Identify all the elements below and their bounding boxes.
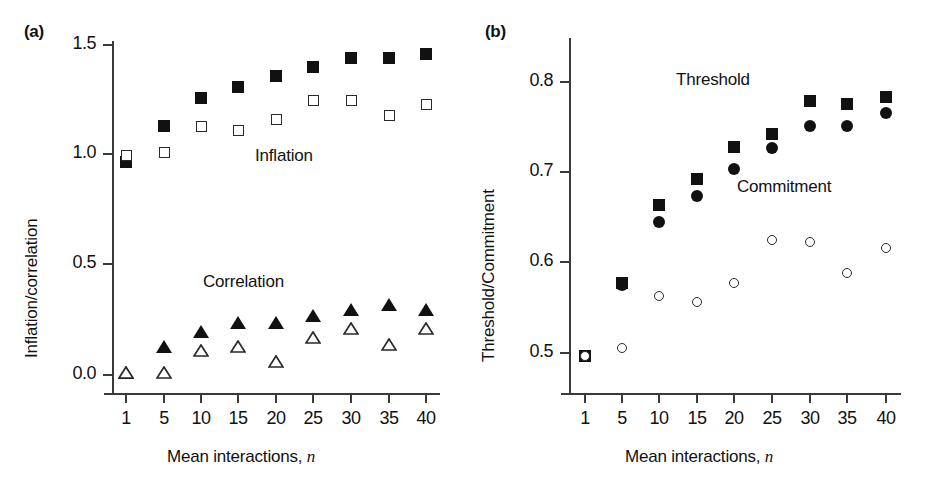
data-point-open-square-40 [421, 99, 432, 110]
data-point-filled-triangle-30 [343, 303, 359, 316]
data-point-open-circle-35 [842, 268, 852, 278]
panel-b-xtick-35 [846, 394, 848, 403]
data-point-filled-triangle-15 [230, 316, 246, 329]
data-point-filled-triangle-10 [193, 325, 209, 338]
panel-b-xtick-30 [809, 394, 811, 403]
data-point-filled-square-15 [232, 81, 244, 93]
panel-b-xtick-15 [696, 394, 698, 403]
data-point-filled-square-35 [841, 98, 853, 110]
data-point-filled-triangle-25 [305, 309, 321, 322]
panel-a-xtick-label-1: 1 [106, 408, 146, 429]
data-point-open-circle-30 [805, 237, 815, 247]
panel-a-xtick-1 [125, 394, 127, 403]
panel-b-xtick-label-40: 40 [866, 408, 906, 429]
data-point-filled-square-5 [158, 120, 170, 132]
panel-a-xtick-25 [312, 394, 314, 403]
data-point-open-circle-10 [654, 291, 664, 301]
panel-b-plot-area: 1510152025303540 [465, 0, 930, 488]
data-point-filled-square-15 [691, 173, 703, 185]
data-point-filled-square-40 [880, 91, 892, 103]
panel-b-xtick-25 [771, 394, 773, 403]
data-point-open-circle-1 [580, 351, 590, 361]
panel-a-xtick-label-20: 20 [256, 408, 296, 429]
data-point-open-circle-15 [692, 297, 702, 307]
panel-b-xtick-10 [658, 394, 660, 403]
panel-a-xtick-40 [425, 394, 427, 403]
data-point-open-square-10 [196, 121, 207, 132]
data-point-filled-circle-40 [880, 107, 892, 119]
panel-b-xtick-label-1: 1 [565, 408, 605, 429]
data-point-filled-triangle-20 [268, 316, 284, 329]
panel-b-xtick-1 [584, 394, 586, 403]
data-point-filled-circle-25 [766, 142, 778, 154]
data-point-filled-circle-35 [841, 120, 853, 132]
data-point-open-square-5 [159, 147, 170, 158]
panel-a-xtick-30 [350, 394, 352, 403]
data-point-open-square-35 [384, 110, 395, 121]
data-point-open-circle-40 [881, 243, 891, 253]
data-point-open-circle-25 [767, 235, 777, 245]
panel-b-xtick-label-25: 25 [752, 408, 792, 429]
data-point-open-triangle-40 [418, 322, 434, 335]
panel-a-x-axis-label-italic: n [307, 447, 315, 466]
data-point-open-square-30 [346, 95, 357, 106]
data-point-filled-square-25 [766, 128, 778, 140]
data-point-open-circle-5 [617, 343, 627, 353]
panel-b-x-axis-label-italic: n [765, 447, 773, 466]
panel-a-plot-area: 1510152025303540 [0, 0, 465, 488]
data-point-open-triangle-15 [230, 340, 246, 353]
panel-b-xtick-label-20: 20 [714, 408, 754, 429]
data-point-open-triangle-35 [381, 338, 397, 351]
panel-a-xtick-label-25: 25 [293, 408, 333, 429]
panel-a-xtick-label-35: 35 [369, 408, 409, 429]
figure-scatter-panels: (a) Inflation/correlation 1.5 1.0 0.5 0.… [0, 0, 930, 488]
panel-a-x-axis-label: Mean interactions, n [167, 447, 315, 467]
panel-b-xtick-40 [885, 394, 887, 403]
panel-a-xtick-5 [163, 394, 165, 403]
data-point-open-circle-20 [729, 278, 739, 288]
data-point-filled-triangle-5 [156, 340, 172, 353]
data-point-filled-square-20 [270, 70, 282, 82]
data-point-filled-square-20 [728, 141, 740, 153]
data-point-filled-circle-15 [691, 190, 703, 202]
panel-a-xtick-35 [388, 394, 390, 403]
panel-a-x-axis-label-text: Mean interactions, [167, 447, 302, 466]
data-point-open-square-1 [121, 150, 132, 161]
data-point-filled-square-30 [804, 95, 816, 107]
data-point-open-triangle-30 [343, 322, 359, 335]
panel-a-xtick-15 [237, 394, 239, 403]
panel-a-xtick-label-40: 40 [406, 408, 446, 429]
panel-a-xtick-10 [200, 394, 202, 403]
panel-b-xtick-label-30: 30 [790, 408, 830, 429]
data-point-filled-square-10 [195, 92, 207, 104]
panel-b-xtick-5 [621, 394, 623, 403]
data-point-filled-triangle-40 [418, 303, 434, 316]
data-point-open-square-15 [233, 125, 244, 136]
panel-a-xtick-label-5: 5 [144, 408, 184, 429]
data-point-filled-circle-30 [804, 120, 816, 132]
panel-b: (b) Threshold/Commitment 0.8 0.7 0.6 0.5… [465, 0, 930, 488]
panel-b-xtick-label-35: 35 [827, 408, 867, 429]
data-point-open-triangle-5 [156, 366, 172, 379]
data-point-filled-triangle-35 [381, 298, 397, 311]
data-point-filled-circle-20 [728, 163, 740, 175]
data-point-filled-square-30 [345, 52, 357, 64]
panel-a-xtick-label-30: 30 [331, 408, 371, 429]
panel-b-xtick-label-5: 5 [602, 408, 642, 429]
panel-a-xtick-20 [275, 394, 277, 403]
panel-b-xtick-label-10: 10 [639, 408, 679, 429]
data-point-filled-circle-5 [616, 279, 628, 291]
data-point-filled-square-10 [653, 199, 665, 211]
panel-a: (a) Inflation/correlation 1.5 1.0 0.5 0.… [0, 0, 465, 488]
data-point-open-square-25 [308, 95, 319, 106]
panel-a-xtick-label-15: 15 [218, 408, 258, 429]
panel-b-xtick-label-15: 15 [677, 408, 717, 429]
data-point-open-triangle-20 [268, 355, 284, 368]
data-point-filled-circle-10 [653, 216, 665, 228]
data-point-open-triangle-10 [193, 344, 209, 357]
data-point-filled-square-35 [383, 52, 395, 64]
data-point-open-square-20 [271, 114, 282, 125]
panel-a-xtick-label-10: 10 [181, 408, 221, 429]
panel-b-x-axis-label: Mean interactions, n [625, 447, 773, 467]
panel-b-xtick-20 [733, 394, 735, 403]
